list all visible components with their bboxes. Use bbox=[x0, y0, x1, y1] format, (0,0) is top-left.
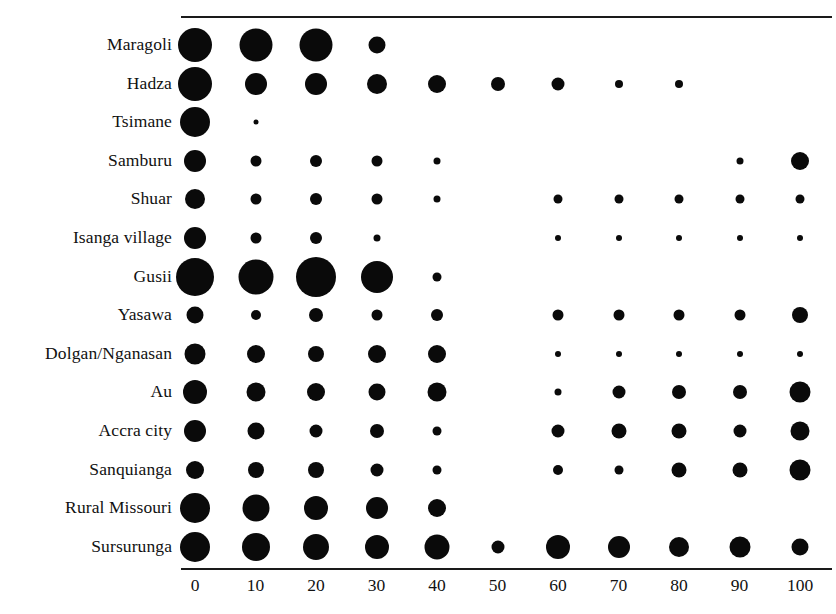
row-label-shuar: Shuar bbox=[131, 191, 172, 209]
bubble-marker bbox=[296, 257, 336, 297]
bubble-marker bbox=[737, 351, 743, 357]
bubble-marker bbox=[368, 37, 385, 54]
bubble-marker bbox=[791, 152, 809, 170]
bubble-marker bbox=[247, 423, 264, 440]
bubble-marker bbox=[310, 425, 323, 438]
bubble-marker bbox=[247, 345, 265, 363]
x-tick-60: 60 bbox=[549, 577, 567, 595]
bubble-marker bbox=[675, 195, 684, 204]
plot-area: MaragoliHadzaTsimaneSamburuShuarIsanga v… bbox=[0, 0, 836, 614]
x-tick-90: 90 bbox=[731, 577, 749, 595]
bubble-marker bbox=[366, 497, 388, 519]
bubble-marker bbox=[371, 194, 382, 205]
bubble-marker bbox=[178, 28, 212, 62]
bubble-marker bbox=[735, 195, 744, 204]
x-tick-70: 70 bbox=[610, 577, 628, 595]
bubble-marker bbox=[433, 465, 442, 474]
bubble-marker bbox=[304, 496, 328, 520]
bubble-chart: MaragoliHadzaTsimaneSamburuShuarIsanga v… bbox=[0, 0, 836, 614]
bubble-marker bbox=[796, 195, 805, 204]
x-tick-100: 100 bbox=[787, 577, 813, 595]
row-label-sanquianga: Sanquianga bbox=[89, 461, 172, 479]
bubble-marker bbox=[433, 272, 442, 281]
bubble-marker bbox=[615, 80, 623, 88]
bubble-marker bbox=[361, 261, 393, 293]
bubble-marker bbox=[729, 536, 750, 557]
bubble-marker bbox=[669, 537, 689, 557]
bubble-marker bbox=[308, 346, 324, 362]
bubble-marker bbox=[367, 74, 387, 94]
bubble-marker bbox=[611, 424, 626, 439]
x-tick-20: 20 bbox=[307, 577, 325, 595]
bubble-marker bbox=[245, 73, 267, 95]
bubble-marker bbox=[250, 233, 261, 244]
top-axis-rule bbox=[181, 16, 832, 18]
bubble-marker bbox=[491, 540, 504, 553]
bubble-marker bbox=[555, 351, 561, 357]
bubble-marker bbox=[552, 425, 565, 438]
bubble-marker bbox=[608, 536, 630, 558]
bubble-marker bbox=[371, 155, 382, 166]
x-tick-80: 80 bbox=[670, 577, 688, 595]
row-label-maragoli: Maragoli bbox=[107, 36, 172, 54]
x-tick-10: 10 bbox=[247, 577, 265, 595]
bubble-marker bbox=[186, 461, 204, 479]
bubble-marker bbox=[792, 307, 808, 323]
bubble-marker bbox=[672, 385, 686, 399]
bubble-marker bbox=[238, 259, 273, 294]
bottom-axis-rule bbox=[181, 568, 832, 570]
bubble-marker bbox=[305, 73, 327, 95]
row-label-yasawa: Yasawa bbox=[118, 306, 172, 324]
bubble-marker bbox=[300, 29, 333, 62]
bubble-marker bbox=[676, 351, 682, 357]
row-label-gusii: Gusii bbox=[134, 268, 172, 286]
bubble-marker bbox=[736, 157, 743, 164]
bubble-marker bbox=[242, 495, 269, 522]
bubble-marker bbox=[431, 309, 443, 321]
bubble-marker bbox=[434, 196, 441, 203]
bubble-marker bbox=[672, 424, 687, 439]
bubble-marker bbox=[368, 345, 386, 363]
x-tick-30: 30 bbox=[368, 577, 386, 595]
bubble-marker bbox=[373, 235, 380, 242]
bubble-marker bbox=[428, 383, 447, 402]
bubble-marker bbox=[546, 535, 570, 559]
bubble-marker bbox=[368, 384, 385, 401]
bubble-marker bbox=[797, 351, 803, 357]
bubble-marker bbox=[555, 235, 561, 241]
bubble-marker bbox=[248, 462, 264, 478]
bubble-marker bbox=[737, 235, 743, 241]
bubble-marker bbox=[185, 189, 205, 209]
bubble-marker bbox=[310, 193, 322, 205]
bubble-marker bbox=[552, 77, 565, 90]
bubble-marker bbox=[612, 386, 625, 399]
bubble-marker bbox=[253, 120, 258, 125]
bubble-marker bbox=[553, 310, 564, 321]
bubble-marker bbox=[250, 194, 261, 205]
bubble-marker bbox=[187, 307, 204, 324]
bubble-marker bbox=[797, 235, 803, 241]
bubble-marker bbox=[792, 538, 809, 555]
bubble-marker bbox=[614, 465, 623, 474]
bubble-marker bbox=[428, 345, 446, 363]
x-tick-50: 50 bbox=[489, 577, 507, 595]
bubble-marker bbox=[433, 427, 442, 436]
bubble-marker bbox=[616, 351, 622, 357]
bubble-marker bbox=[184, 227, 206, 249]
row-label-rural-missouri: Rural Missouri bbox=[65, 499, 172, 517]
bubble-marker bbox=[428, 499, 446, 517]
bubble-marker bbox=[239, 29, 272, 62]
bubble-marker bbox=[180, 493, 210, 523]
bubble-marker bbox=[176, 258, 214, 296]
bubble-marker bbox=[614, 195, 623, 204]
bubble-marker bbox=[676, 235, 682, 241]
bubble-marker bbox=[790, 382, 811, 403]
bubble-marker bbox=[183, 380, 207, 404]
bubble-marker bbox=[554, 195, 563, 204]
bubble-marker bbox=[307, 383, 325, 401]
bubble-marker bbox=[310, 232, 322, 244]
bubble-marker bbox=[791, 422, 810, 441]
bubble-marker bbox=[370, 463, 383, 476]
bubble-marker bbox=[178, 67, 212, 101]
row-label-sursurunga: Sursurunga bbox=[91, 538, 172, 556]
